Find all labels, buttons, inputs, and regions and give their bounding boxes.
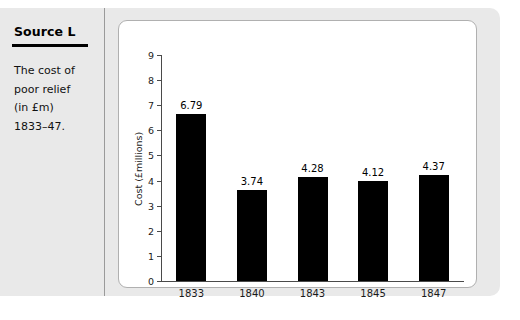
bar [298,177,328,281]
x-tick-label: 1847 [408,288,460,299]
y-tick-mark [157,105,161,106]
title-underline [12,44,88,47]
chart-panel: Cost (£millions) 0123456789 6.793.744.28… [118,20,477,288]
y-tick-mark [157,130,161,131]
y-tick-label: 6 [140,125,154,136]
caption-line: 1833–47. [14,118,100,137]
x-axis-line [161,281,464,282]
y-tick-label: 3 [140,200,154,211]
y-tick-label: 9 [140,50,154,61]
bar-value-label: 3.74 [226,176,278,187]
y-tick-label: 5 [140,150,154,161]
y-tick-label: 8 [140,75,154,86]
source-figure: Source L The cost of poor relief (in £m)… [0,8,500,296]
source-title: Source L [14,24,76,39]
y-tick-mark [157,281,161,282]
bar-value-label: 6.79 [165,100,217,111]
bar-value-label: 4.12 [347,167,399,178]
y-tick-mark [157,206,161,207]
caption-line: (in £m) [14,99,100,118]
x-tick-label: 1833 [165,288,217,299]
y-axis-title: Cost (£millions) [133,132,144,206]
source-caption: The cost of poor relief (in £m) 1833–47. [14,62,100,136]
y-axis-line [161,55,162,281]
caption-line: The cost of [14,62,100,81]
x-tick-label: 1840 [226,288,278,299]
bar-value-label: 4.37 [408,161,460,172]
y-tick-mark [157,231,161,232]
caption-panel: Source L The cost of poor relief (in £m)… [0,8,105,296]
bar-chart-plot: Cost (£millions) 0123456789 6.793.744.28… [119,21,478,289]
y-tick-label: 1 [140,250,154,261]
x-tick-label: 1843 [287,288,339,299]
bar [419,175,449,281]
bar [358,181,388,281]
y-tick-mark [157,80,161,81]
y-tick-mark [157,55,161,56]
bar-value-label: 4.28 [287,163,339,174]
y-tick-label: 7 [140,100,154,111]
x-tick-label: 1845 [347,288,399,299]
y-tick-mark [157,256,161,257]
y-tick-label: 4 [140,175,154,186]
y-tick-label: 2 [140,225,154,236]
bar [176,114,206,281]
y-tick-mark [157,155,161,156]
y-tick-label: 0 [140,276,154,287]
caption-line: poor relief [14,81,100,100]
bar [237,190,267,281]
y-tick-mark [157,181,161,182]
